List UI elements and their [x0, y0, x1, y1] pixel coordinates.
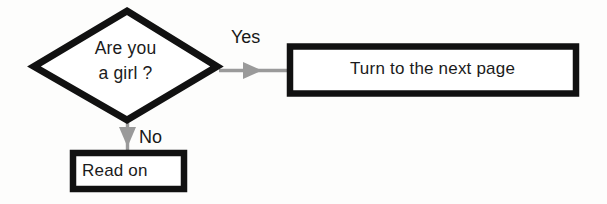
edge-label-no: No: [139, 127, 162, 147]
edge-label-yes: Yes: [231, 27, 260, 47]
process-next-page-label: Turn to the next page: [293, 56, 572, 82]
yes-arrowhead-icon: [243, 62, 262, 79]
decision-node-label: Are you a girl ?: [33, 36, 218, 86]
process-read-on-label: Read on: [76, 159, 181, 183]
no-arrowhead-icon: [119, 127, 136, 147]
yes-connector: [219, 62, 290, 79]
flowchart-canvas: Are you a girl ? Turn to the next page R…: [0, 0, 607, 204]
